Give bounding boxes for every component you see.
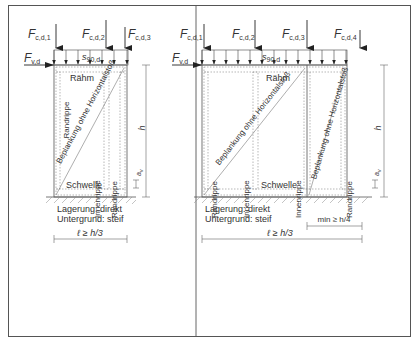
force-label-fcd3: Fc,d,3: [282, 27, 305, 41]
length-label: ℓ ≥ h/3: [266, 228, 292, 238]
force-label-fcd1: Fc,d,1: [180, 27, 203, 41]
distributed-load-label: s90,d: [262, 52, 280, 63]
force-label-fcd1: Fc,d,1: [28, 27, 51, 41]
top-plate: [56, 67, 125, 72]
height-label: h: [137, 125, 147, 130]
force-label-fcd2: Fc,d,2: [82, 27, 105, 41]
force-label-fcd4: Fc,d,4: [334, 27, 357, 41]
force-label-fvd: Fv,d: [24, 51, 40, 65]
edge-stud-left: [204, 72, 208, 189]
height-label: h: [373, 125, 383, 130]
inner-stud: [104, 72, 109, 189]
wall-diagram: Fc,d,1 Fc,d,2 Fc,d,3 Fv,d s90,d Rähm Sch…: [0, 0, 413, 344]
distributed-load-label: s90,d: [82, 52, 100, 63]
right-panel: Fc,d,1 Fc,d,2 Fc,d,3 Fc,d,4 Fv,d s90,d R…: [172, 20, 388, 243]
edge-stud-right: [120, 72, 125, 189]
ground-hatch: [194, 197, 368, 203]
sheathing-2-label: Beplankung ohne Horizontalstoß: [309, 66, 350, 180]
subsoil-label: Untergrund: steif: [205, 214, 272, 224]
ground-hatch: [46, 197, 136, 204]
bottom-plate-label: Schwelle: [261, 180, 297, 190]
sheathing-diagonal-1: [204, 68, 305, 195]
edge-stud-left: [56, 72, 60, 189]
anchor-label: av: [135, 169, 144, 176]
bearing-label: Lagerung: direkt: [205, 204, 271, 214]
force-label-fcd3: Fc,d,3: [128, 27, 151, 41]
subsoil-label: Untergrund: steif: [57, 214, 124, 224]
length-label: ℓ ≥ h/3: [76, 228, 102, 238]
min-length-label: min ≥ h/4: [318, 215, 351, 224]
force-label-fcd2: Fc,d,2: [232, 27, 255, 41]
top-plate: [204, 67, 345, 72]
left-panel: Fc,d,1 Fc,d,2 Fc,d,3 Fv,d s90,d Rähm Sch…: [24, 20, 151, 243]
bearing-label: Lagerung: direkt: [57, 204, 123, 214]
top-plate-label: Rähm: [70, 73, 94, 83]
anchor-label: av: [373, 169, 382, 176]
force-label-fvd: Fv,d: [172, 51, 188, 65]
inner-stud-2-label: Innenrippe: [294, 180, 303, 218]
